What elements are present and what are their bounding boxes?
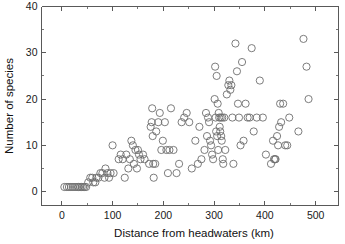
data-point bbox=[232, 40, 239, 47]
data-point bbox=[119, 156, 126, 163]
data-point bbox=[210, 156, 217, 163]
scatter-plot-figure: 0102030400100200300400500Distance from h… bbox=[0, 0, 345, 244]
data-point bbox=[218, 137, 225, 144]
y-axis-title: Number of species bbox=[3, 58, 15, 154]
data-point bbox=[220, 160, 227, 167]
y-tick-label: 10 bbox=[26, 139, 38, 151]
axis-spine-box bbox=[42, 7, 339, 206]
data-point bbox=[149, 105, 156, 112]
data-point bbox=[175, 160, 182, 167]
data-point bbox=[202, 109, 209, 116]
data-point bbox=[192, 137, 199, 144]
data-point bbox=[196, 123, 203, 130]
data-point bbox=[248, 45, 255, 52]
data-point bbox=[215, 146, 222, 153]
data-point bbox=[242, 100, 249, 107]
y-tick-label: 20 bbox=[26, 93, 38, 105]
data-point bbox=[201, 146, 208, 153]
data-point bbox=[156, 109, 163, 116]
x-tick-label: 500 bbox=[307, 209, 325, 221]
data-point bbox=[208, 151, 215, 158]
data-point bbox=[164, 170, 171, 177]
data-point bbox=[234, 100, 241, 107]
data-point bbox=[233, 68, 240, 75]
data-point bbox=[109, 142, 116, 149]
axis-frame bbox=[42, 7, 339, 206]
data-point bbox=[207, 142, 214, 149]
data-point bbox=[226, 77, 233, 84]
data-point bbox=[303, 63, 310, 70]
data-point bbox=[230, 160, 237, 167]
data-point bbox=[222, 146, 229, 153]
data-point bbox=[141, 156, 148, 163]
data-point bbox=[159, 137, 166, 144]
data-point bbox=[123, 151, 130, 158]
data-point bbox=[213, 72, 220, 79]
x-tick-label: 0 bbox=[59, 209, 65, 221]
axis-spine-main bbox=[42, 7, 339, 206]
data-point bbox=[153, 128, 160, 135]
data-point bbox=[262, 151, 269, 158]
y-tick-label: 40 bbox=[26, 0, 38, 12]
data-point bbox=[186, 119, 193, 126]
data-point bbox=[126, 156, 133, 163]
data-point bbox=[295, 128, 302, 135]
data-point bbox=[212, 63, 219, 70]
y-tick-label: 30 bbox=[26, 46, 38, 58]
data-point bbox=[155, 119, 162, 126]
data-point bbox=[227, 86, 234, 93]
x-tick-label: 400 bbox=[256, 209, 274, 221]
data-point bbox=[223, 91, 230, 98]
data-point bbox=[305, 95, 312, 102]
data-point bbox=[278, 119, 285, 126]
data-point bbox=[205, 119, 212, 126]
x-tick-label: 100 bbox=[104, 209, 122, 221]
data-point bbox=[286, 114, 293, 121]
y-tick-label: 0 bbox=[32, 185, 38, 197]
data-point bbox=[273, 132, 280, 139]
data-point bbox=[115, 156, 122, 163]
data-point bbox=[170, 146, 177, 153]
data-point bbox=[105, 174, 112, 181]
data-point bbox=[188, 165, 195, 172]
data-point bbox=[229, 114, 236, 121]
data-point bbox=[194, 160, 201, 167]
x-tick-label: 200 bbox=[155, 209, 173, 221]
data-point bbox=[150, 174, 157, 181]
data-point bbox=[198, 156, 205, 163]
data-point bbox=[121, 174, 128, 181]
data-points bbox=[61, 35, 312, 190]
data-point bbox=[235, 114, 242, 121]
data-point bbox=[274, 142, 281, 149]
data-point bbox=[128, 137, 135, 144]
data-point bbox=[300, 35, 307, 42]
data-point bbox=[161, 119, 168, 126]
data-point bbox=[250, 128, 257, 135]
data-point bbox=[256, 77, 263, 84]
data-point bbox=[276, 123, 283, 130]
data-point bbox=[148, 119, 155, 126]
data-point bbox=[272, 156, 279, 163]
axis-ticks bbox=[42, 7, 339, 206]
data-point bbox=[238, 58, 245, 65]
data-point bbox=[204, 114, 211, 121]
data-point bbox=[167, 105, 174, 112]
plot-canvas: 0102030400100200300400500Distance from h… bbox=[0, 0, 345, 244]
x-axis-title: Distance from headwaters (km) bbox=[114, 227, 274, 239]
data-point bbox=[173, 170, 180, 177]
data-point bbox=[149, 132, 156, 139]
x-tick-label: 300 bbox=[205, 209, 223, 221]
